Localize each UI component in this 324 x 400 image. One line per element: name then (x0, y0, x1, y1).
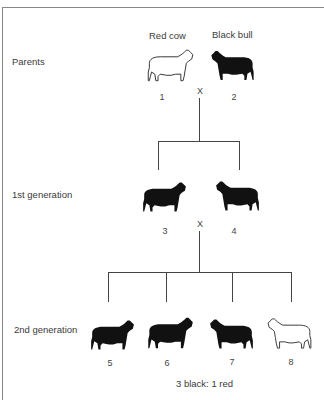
animal-number-1: 1 (159, 92, 164, 102)
cross-symbol-1st-generation: X (197, 219, 203, 229)
black-cow-silhouette-icon (88, 318, 136, 352)
row-label-2nd-generation: 2nd generation (14, 324, 77, 335)
connector-line (158, 141, 159, 170)
row-label-parents: Parents (12, 56, 45, 67)
label-red-cow: Red cow (149, 30, 186, 41)
animal-number-7: 7 (229, 357, 234, 367)
row-label-1st-generation: 1st generation (12, 189, 72, 200)
animal-number-6: 6 (164, 358, 169, 368)
connector-line (199, 231, 200, 273)
red-cow-outline-icon (266, 316, 314, 351)
animal-number-5: 5 (107, 358, 112, 368)
black-cow-silhouette-icon (214, 179, 262, 213)
connector-line (158, 141, 240, 142)
black-cow-silhouette-icon (145, 315, 195, 351)
label-black-bull: Black bull (212, 29, 253, 40)
animal-number-8: 8 (288, 357, 293, 367)
connector-line (108, 272, 109, 302)
connector-line (291, 272, 292, 302)
connector-line (108, 272, 292, 273)
connector-line (239, 141, 240, 170)
connector-line (232, 272, 233, 302)
black-cow-silhouette-icon (140, 180, 188, 214)
connector-line (199, 98, 200, 142)
animal-number-3: 3 (162, 226, 167, 236)
animal-number-2: 2 (231, 92, 236, 102)
connector-line (166, 272, 167, 302)
red-cow-outline-icon (145, 48, 195, 83)
black-cow-silhouette-icon (208, 317, 256, 351)
frame-top-border (2, 7, 324, 8)
frame-left-border (2, 7, 3, 400)
animal-number-4: 4 (231, 226, 236, 236)
cross-symbol-parents: X (197, 86, 203, 96)
black-bull-silhouette-icon (209, 49, 257, 82)
ratio-caption: 3 black: 1 red (176, 378, 233, 389)
